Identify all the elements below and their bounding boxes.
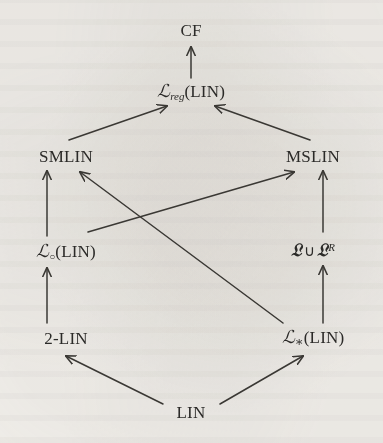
- node-mslin: MSLIN: [286, 148, 340, 165]
- node-l-reg-lin: ℒreg(LIN): [157, 82, 225, 102]
- node-lin: LIN: [177, 404, 206, 421]
- node-2-lin: 2-LIN: [44, 330, 87, 347]
- node-l-circ-lin-part-0: ℒ: [36, 240, 49, 261]
- node-cf: CF: [180, 22, 201, 39]
- node-smlin-part-0: SMLIN: [39, 147, 93, 166]
- edge-smlin-to-lreg: [69, 106, 167, 140]
- node-frak-l-union-frak-l-r-part-0: 𝔏: [291, 239, 302, 260]
- node-smlin: SMLIN: [39, 148, 93, 165]
- edge-lin-to-lstar: [220, 356, 303, 404]
- edge-layer: [0, 0, 383, 443]
- node-l-circ-lin: ℒ○(LIN): [36, 242, 96, 261]
- node-mslin-part-0: MSLIN: [286, 147, 340, 166]
- node-l-star-lin-part-1: ∗: [295, 334, 304, 349]
- node-l-star-lin: ℒ∗(LIN): [282, 328, 345, 349]
- node-frak-l-union-frak-l-r-part-2: 𝔏: [317, 239, 328, 260]
- node-l-star-lin-part-2: (LIN): [304, 328, 345, 347]
- node-cf-part-0: CF: [180, 21, 201, 40]
- node-frak-l-union-frak-l-r-part-3: R: [328, 241, 335, 253]
- node-lin-part-0: LIN: [177, 403, 206, 422]
- figure-canvas: CFℒreg(LIN)SMLINMSLINℒ○(LIN)𝔏∪𝔏R2-LINℒ∗(…: [0, 0, 383, 443]
- edge-lstar-to-smlin: [80, 172, 283, 323]
- edge-mslin-to-lreg: [215, 106, 310, 140]
- node-l-circ-lin-part-2: (LIN): [55, 242, 96, 261]
- edge-lin-to-2lin: [66, 356, 163, 404]
- node-frak-l-union-frak-l-r: 𝔏∪𝔏R: [291, 241, 336, 259]
- node-l-reg-lin-part-0: ℒ: [157, 80, 170, 101]
- node-l-star-lin-part-0: ℒ: [282, 326, 295, 347]
- edge-lcirc-to-mslin: [88, 172, 294, 232]
- node-l-reg-lin-part-1: reg: [170, 90, 184, 102]
- node-frak-l-union-frak-l-r-part-1: ∪: [302, 242, 317, 260]
- node-2-lin-part-0: 2-LIN: [44, 329, 87, 348]
- node-l-reg-lin-part-2: (LIN): [184, 82, 225, 101]
